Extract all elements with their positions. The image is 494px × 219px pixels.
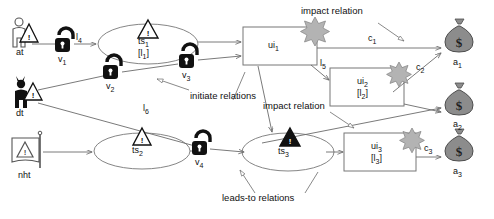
node-label-ui3-text: ui — [371, 141, 378, 151]
svg-text:$: $ — [456, 35, 463, 50]
node-label-ts3: ts3 — [278, 146, 289, 158]
annotation-leads-to-relations: leads-to relations — [222, 192, 294, 203]
asset-label-a1: a1 — [453, 57, 462, 69]
node-likelihood-ui2: [l2] — [357, 88, 368, 100]
impact-star-ui2-icon — [387, 62, 412, 87]
asset-label-a2: a2 — [453, 119, 462, 131]
person-warning-icon: ! — [13, 18, 38, 47]
node-label-ui1-sub: 1 — [275, 45, 279, 52]
edge-v2-v3 — [122, 64, 178, 72]
annotation-initiate-relations: initiate relations — [190, 90, 256, 101]
leader-leads-to-a — [240, 170, 255, 193]
node-label-ts1-sub: 1 — [145, 41, 149, 48]
edge-label-c1-sub: 1 — [373, 38, 377, 45]
diagram-graphic: ! ! ! ! — [0, 0, 494, 219]
node-label-ui2: ui2 — [357, 76, 368, 88]
asset-label-a2-sub: 2 — [458, 124, 462, 131]
edge-label-l5: l5 — [320, 58, 326, 70]
edge-v4-ts3 — [210, 149, 244, 152]
svg-text:$: $ — [456, 144, 463, 159]
ui2-l-close: ] — [365, 88, 368, 98]
actor-label-at: at — [16, 47, 24, 57]
node-likelihood-ts1: [l1] — [138, 48, 149, 60]
node-likelihood-ui3: [l3] — [371, 153, 382, 165]
edge-ui2-a2 — [404, 104, 441, 112]
svg-text:!: ! — [289, 137, 292, 146]
edge-label-c3: c3 — [424, 143, 432, 155]
node-label-ts2-sub: 2 — [139, 150, 143, 157]
open-padlock-icon-v4 — [192, 131, 210, 155]
node-label-ui1-text: ui — [268, 40, 275, 50]
node-label-ui2-sub: 2 — [364, 81, 368, 88]
asset-label-a3: a3 — [453, 166, 462, 178]
node-label-ui3: ui3 — [371, 141, 382, 153]
svg-text:!: ! — [28, 33, 31, 42]
node-label-ui1: ui1 — [268, 40, 279, 52]
edge-label-l4: l4 — [76, 32, 82, 44]
actor-label-nht: nht — [18, 170, 31, 180]
diagram-canvas: ! ! ! ! — [0, 0, 494, 219]
impact-star-ui3-icon — [400, 128, 425, 153]
vuln-label-v4-sub: 4 — [200, 162, 204, 169]
node-label-ts1: ts1 — [138, 36, 149, 48]
svg-text:!: ! — [141, 136, 144, 145]
annotation-impact-relation-top: impact relation — [301, 5, 363, 16]
edge-v3-ui1 — [198, 56, 241, 60]
edge-label-c2: c2 — [416, 62, 424, 74]
edge-dt-v2 — [38, 76, 103, 90]
svg-text:!: ! — [24, 148, 27, 157]
ui3-l-close: ] — [379, 153, 382, 163]
vuln-label-v4: v4 — [195, 157, 203, 169]
asset-label-a1-sub: 1 — [458, 62, 462, 69]
money-bag-icon-a1: $ — [445, 19, 473, 52]
edge-label-c1: c1 — [368, 33, 376, 45]
vuln-label-v3: v3 — [182, 70, 190, 82]
node-label-ts2-text: ts — [132, 145, 139, 155]
svg-text:$: $ — [456, 98, 463, 113]
svg-text:!: ! — [32, 91, 35, 100]
edge-label-l4-sub: 4 — [78, 37, 82, 44]
money-bag-icon-a2: $ — [445, 83, 473, 115]
edge-label-l6: l6 — [143, 103, 149, 115]
actor-label-dt: dt — [16, 108, 24, 118]
ts1-l-close: ] — [146, 48, 149, 58]
vuln-label-v1-sub: 1 — [63, 59, 67, 66]
impact-star-ui1-icon — [301, 17, 330, 46]
edge-label-c2-sub: 2 — [421, 67, 425, 74]
annotation-impact-relation-middle: impact relation — [263, 100, 325, 111]
node-label-ts3-text: ts — [278, 146, 285, 156]
node-label-ui2-text: ui — [357, 76, 364, 86]
vuln-label-v1: v1 — [58, 54, 66, 66]
leader-impact-top — [378, 23, 404, 41]
vuln-label-v3-sub: 3 — [187, 75, 191, 82]
money-bag-icon-a3: $ — [445, 129, 473, 161]
node-label-ui3-sub: 3 — [378, 146, 382, 153]
open-padlock-icon-v1 — [55, 28, 73, 52]
node-label-ts3-sub: 3 — [285, 151, 289, 158]
edge-label-l5-sub: 5 — [322, 63, 326, 70]
leader-leads-to-b — [305, 172, 318, 193]
edge-ui1-ts3 — [258, 66, 272, 132]
open-padlock-icon-v2 — [103, 55, 121, 79]
asset-label-a3-sub: 3 — [458, 171, 462, 178]
vuln-label-v2: v2 — [106, 81, 114, 93]
node-label-ts1-text: ts — [138, 36, 145, 46]
leader-impact-middle — [330, 112, 354, 128]
vuln-label-v2-sub: 2 — [111, 86, 115, 93]
flag-warning-icon: ! — [12, 131, 42, 168]
edge-label-c3-sub: 3 — [429, 148, 433, 155]
edge-label-l6-sub: 6 — [145, 108, 149, 115]
node-label-ts2: ts2 — [132, 145, 143, 157]
